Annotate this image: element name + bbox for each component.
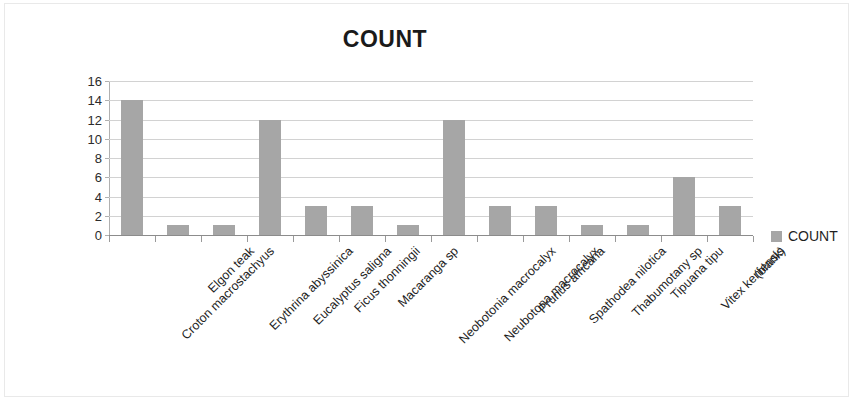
y-tick-label: 12: [88, 112, 102, 127]
gridline: [109, 120, 753, 121]
x-tick-mark: [523, 236, 524, 242]
gridline: [109, 139, 753, 140]
bar: [489, 206, 511, 235]
gridline: [109, 197, 753, 198]
bar: [673, 177, 695, 235]
x-tick-mark: [247, 236, 248, 242]
x-tick-mark: [155, 236, 156, 242]
y-tick-label: 4: [95, 189, 102, 204]
x-tick-mark: [293, 236, 294, 242]
gridline: [109, 81, 753, 82]
chart-container: COUNT 0246810121416 Croton macrostachyus…: [4, 3, 849, 397]
bar: [397, 225, 419, 235]
bar: [259, 120, 281, 236]
y-tick-mark: [105, 177, 109, 178]
y-tick-mark: [105, 100, 109, 101]
y-tick-label: 0: [95, 228, 102, 243]
x-axis-labels: Croton macrostachyusElgon teakErythrina …: [109, 244, 753, 394]
x-tick-mark: [707, 236, 708, 242]
plot-area: 0246810121416: [109, 81, 753, 236]
x-tick-mark: [477, 236, 478, 242]
y-tick-label: 10: [88, 131, 102, 146]
x-tick-mark: [201, 236, 202, 242]
x-tick-mark: [569, 236, 570, 242]
y-tick-mark: [105, 120, 109, 121]
y-tick-mark: [105, 81, 109, 82]
y-tick-mark: [105, 216, 109, 217]
x-tick-mark: [109, 236, 110, 242]
y-tick-mark: [105, 139, 109, 140]
bar: [535, 206, 557, 235]
bar: [305, 206, 327, 235]
y-tick-mark: [105, 158, 109, 159]
bar: [351, 206, 373, 235]
bar: [167, 225, 189, 235]
legend-swatch-icon: [771, 231, 782, 242]
y-tick-label: 2: [95, 208, 102, 223]
y-tick-label: 14: [88, 93, 102, 108]
y-tick-mark: [105, 197, 109, 198]
y-tick-label: 8: [95, 151, 102, 166]
plot-inner: 0246810121416: [109, 81, 753, 236]
gridline: [109, 216, 753, 217]
gridline: [109, 158, 753, 159]
x-tick-mark: [385, 236, 386, 242]
x-tick-mark: [431, 236, 432, 242]
bar: [627, 225, 649, 235]
y-tick-label: 16: [88, 74, 102, 89]
y-tick-label: 6: [95, 170, 102, 185]
bar: [121, 100, 143, 235]
gridline: [109, 100, 753, 101]
bar: [213, 225, 235, 235]
legend-item-label: COUNT: [788, 228, 838, 244]
bar: [719, 206, 741, 235]
chart-title: COUNT: [5, 26, 765, 53]
x-tick-mark: [753, 236, 754, 242]
x-axis-label: Croton macrostachyus: [179, 244, 277, 342]
x-tick-mark: [661, 236, 662, 242]
chart-legend: COUNT: [771, 228, 838, 244]
bar: [581, 225, 603, 235]
x-tick-mark: [339, 236, 340, 242]
gridline: [109, 177, 753, 178]
bar: [443, 120, 465, 236]
x-tick-mark: [615, 236, 616, 242]
